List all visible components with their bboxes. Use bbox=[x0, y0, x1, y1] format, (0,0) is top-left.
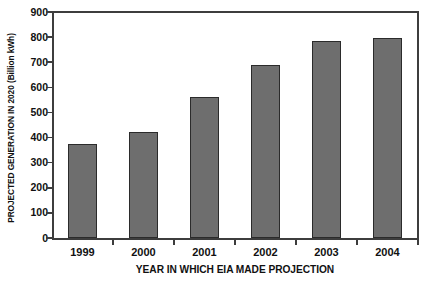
x-tick-label: 1999 bbox=[53, 247, 113, 258]
y-tick-label: 800 bbox=[22, 32, 48, 43]
y-tick-label: 300 bbox=[22, 157, 48, 168]
x-tick-label: 2000 bbox=[114, 247, 174, 258]
x-tick-label: 2001 bbox=[175, 247, 235, 258]
bar bbox=[190, 97, 218, 238]
y-tick-label: 900 bbox=[22, 7, 48, 18]
y-tick-label: 400 bbox=[22, 132, 48, 143]
bar bbox=[251, 65, 279, 238]
bar-series bbox=[52, 12, 418, 238]
x-tick-mark bbox=[417, 239, 419, 245]
x-tick-label: 2002 bbox=[236, 247, 296, 258]
x-tick-mark bbox=[112, 239, 114, 245]
y-tick-label: 200 bbox=[22, 182, 48, 193]
x-tick-label: 2003 bbox=[297, 247, 357, 258]
bar bbox=[373, 38, 401, 238]
y-tick-label: 700 bbox=[22, 57, 48, 68]
y-axis-tick-labels: 0100200300400500600700800900 bbox=[15, 0, 48, 284]
x-tick-mark bbox=[295, 239, 297, 245]
bar bbox=[312, 41, 340, 238]
x-tick-mark bbox=[356, 239, 358, 245]
y-tick-label: 600 bbox=[22, 82, 48, 93]
x-tick-label: 2004 bbox=[358, 247, 418, 258]
bar bbox=[68, 144, 96, 238]
bar-chart-figure: PROJECTED GENERATION IN 2020 (Billion kW… bbox=[0, 0, 427, 284]
x-tick-mark bbox=[234, 239, 236, 245]
y-tick-label: 100 bbox=[22, 207, 48, 218]
y-tick-label: 0 bbox=[22, 233, 48, 244]
x-axis-title: YEAR IN WHICH EIA MADE PROJECTION bbox=[52, 264, 418, 275]
bar bbox=[129, 132, 157, 238]
x-tick-mark bbox=[173, 239, 175, 245]
y-tick-label: 500 bbox=[22, 107, 48, 118]
